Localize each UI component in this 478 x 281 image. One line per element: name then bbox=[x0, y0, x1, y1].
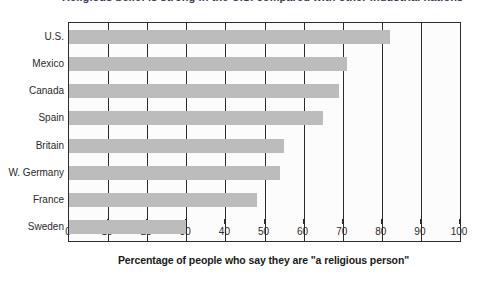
bar bbox=[69, 193, 257, 207]
bar bbox=[69, 30, 390, 44]
plot-area bbox=[68, 22, 461, 242]
y-axis-category-label: France bbox=[0, 194, 64, 205]
x-axis-tick-label: 60 bbox=[288, 226, 318, 237]
x-axis-tick bbox=[342, 219, 343, 224]
x-axis-tick bbox=[224, 219, 225, 224]
gridline bbox=[186, 23, 187, 241]
gridline bbox=[421, 23, 422, 241]
bar bbox=[69, 220, 186, 234]
y-axis-category-label: Spain bbox=[0, 112, 64, 123]
bar bbox=[69, 57, 347, 71]
gridline bbox=[225, 23, 226, 241]
x-axis-tick bbox=[264, 219, 265, 224]
x-axis-tick-label: 40 bbox=[209, 226, 239, 237]
y-axis-category-label: Britain bbox=[0, 140, 64, 151]
x-axis-tick-label: 50 bbox=[249, 226, 279, 237]
bar bbox=[69, 111, 323, 125]
x-axis-tick-label: 70 bbox=[327, 226, 357, 237]
clipped-headline-text: Religious belief is strong in the U.S. c… bbox=[62, 0, 463, 3]
bar bbox=[69, 139, 284, 153]
gridline bbox=[147, 23, 148, 241]
x-axis-tick-label: 80 bbox=[366, 226, 396, 237]
y-axis-category-label: W. Germany bbox=[0, 167, 64, 178]
y-axis-category-label: Canada bbox=[0, 85, 64, 96]
gridline bbox=[108, 23, 109, 241]
gridline bbox=[265, 23, 266, 241]
gridline bbox=[343, 23, 344, 241]
x-axis-tick bbox=[459, 219, 460, 224]
x-axis-tick-label: 90 bbox=[405, 226, 435, 237]
y-axis-category-label: U.S. bbox=[0, 31, 64, 42]
gridline bbox=[304, 23, 305, 241]
bar bbox=[69, 166, 280, 180]
x-axis-tick bbox=[303, 219, 304, 224]
y-axis-category-label: Mexico bbox=[0, 58, 64, 69]
y-axis-category-labels: U.S.MexicoCanadaSpainBritainW. GermanyFr… bbox=[0, 22, 64, 240]
x-axis-tick-label: 100 bbox=[444, 226, 474, 237]
x-axis-title: Percentage of people who say they are "a… bbox=[68, 254, 459, 266]
clipped-headline-strip: Religious belief is strong in the U.S. c… bbox=[0, 0, 478, 7]
bar bbox=[69, 84, 339, 98]
gridline bbox=[382, 23, 383, 241]
x-axis-tick bbox=[420, 219, 421, 224]
x-axis-tick bbox=[381, 219, 382, 224]
chart-figure: Religious belief is strong in the U.S. c… bbox=[0, 0, 478, 281]
